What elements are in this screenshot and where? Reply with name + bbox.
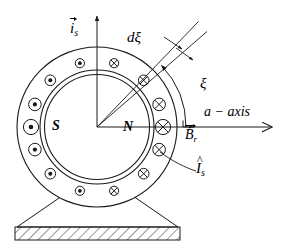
label-south-pole: S	[52, 119, 60, 133]
vector-arrow-overbar	[70, 18, 76, 19]
br-vector-accent-wrap: Br	[185, 128, 197, 144]
foundation-hatched-slab	[15, 227, 180, 240]
label-conductor-current: ^ Is	[196, 161, 205, 178]
label-north-pole: N	[123, 120, 133, 134]
label-rotor-flux-vector: Br	[185, 128, 197, 144]
dxi-xi-symbol: ξ	[135, 29, 141, 45]
is-subscript: s	[74, 27, 78, 38]
vector-accent-wrap: is	[70, 21, 78, 38]
conductor-dot-core	[48, 172, 52, 176]
is-hat-accent-wrap: ^ Is	[196, 161, 205, 178]
conductor-dot-core	[29, 125, 34, 130]
circumflex-accent: ^	[197, 154, 203, 166]
dxi-leader-upper	[164, 37, 182, 49]
conductor-dot-core	[78, 61, 82, 65]
machine-cross-section-diagram	[0, 0, 283, 251]
dxi-leader-lower	[176, 48, 193, 60]
br-vector-arrow-overbar	[185, 125, 195, 126]
conductor-dot-core	[33, 148, 37, 152]
ishat-subscript: s	[201, 167, 205, 178]
label-stator-current-vector: is	[70, 21, 78, 38]
label-differential-angle: dξ	[127, 30, 141, 45]
conductor-dot-core	[78, 189, 82, 193]
figure-canvas: is dξ ξ a − axis Br S N ^ Is	[0, 0, 283, 251]
conductor-dot-core	[33, 102, 37, 106]
br-base-letter: B	[185, 127, 194, 142]
br-subscript: r	[194, 134, 198, 144]
dxi-d-letter: d	[127, 29, 135, 45]
xi-symbol: ξ	[200, 75, 206, 91]
conductor-dot-core	[48, 78, 52, 82]
label-a-axis: a − axis	[204, 105, 250, 119]
label-angle-xi: ξ	[200, 76, 206, 91]
